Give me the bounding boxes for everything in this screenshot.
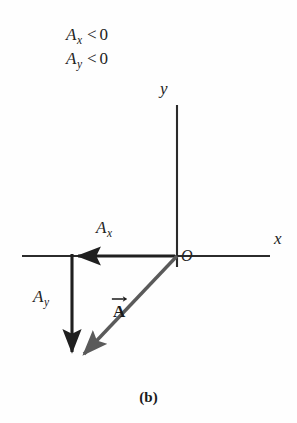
vector-overarrow-icon	[111, 294, 127, 302]
figure-caption: (b)	[0, 389, 297, 406]
vector-ax-label: Ax	[96, 219, 112, 239]
vector-ax-label-symbol: A	[96, 218, 106, 237]
component-sign-conditions: Ax<0 Ay<0	[66, 24, 108, 72]
vector-ay-label-symbol: A	[33, 287, 43, 306]
condition-ax-symbol: A	[66, 25, 76, 44]
condition-ax-value: 0	[100, 25, 109, 44]
vector-a-label-symbol: A	[113, 303, 125, 320]
diagram-canvas	[0, 0, 297, 423]
condition-ay-relation: <	[87, 49, 97, 68]
vector-ax-label-subscript: x	[107, 227, 112, 239]
condition-ax: Ax<0	[66, 24, 108, 48]
vector-components-figure: Ax<0 Ay<0 y x O Ax Ay A (b)	[0, 0, 297, 423]
condition-ay-value: 0	[100, 49, 109, 68]
condition-ay-symbol: A	[66, 49, 76, 68]
vector-a-label-stack: A	[113, 303, 125, 320]
origin-label: O	[181, 248, 193, 264]
x-axis-label: x	[274, 230, 282, 247]
y-axis-label: y	[160, 80, 168, 97]
condition-ay: Ay<0	[66, 48, 108, 72]
vector-ay-label-subscript: y	[44, 296, 49, 308]
vector-ay-label: Ay	[33, 288, 49, 308]
vector-a-arrow	[84, 256, 177, 354]
condition-ax-relation: <	[87, 25, 97, 44]
condition-ax-subscript: x	[77, 34, 82, 46]
vector-a-label: A	[113, 303, 125, 320]
condition-ay-subscript: y	[77, 58, 82, 70]
